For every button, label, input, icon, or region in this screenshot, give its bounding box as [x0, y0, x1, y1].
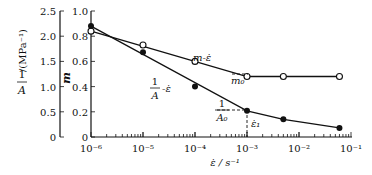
axis-ticks [60, 11, 351, 137]
m-series-markers [88, 28, 342, 79]
y-right-tick-label: 1.0 [72, 6, 88, 17]
x-tick-label: 10⁻⁵ [132, 143, 154, 154]
y-left-tick-label: 0.5 [40, 107, 56, 118]
a-curve-tail: -ε̇ [162, 83, 171, 94]
y-right-tick-label: 0 [82, 132, 88, 143]
m0-label: m₀ [231, 75, 245, 86]
eps1-label: ε̇₁ [251, 118, 260, 129]
y-left-tick-label: 1.5 [40, 56, 56, 67]
a-curve-num: 1 [152, 76, 158, 87]
y-left-tick-label: 2.0 [40, 31, 56, 42]
y-right-tick-label: 0.8 [72, 31, 88, 42]
y-right-tick-label: 0.4 [72, 82, 88, 93]
y-left-unit: /(MPa⁻¹) [17, 29, 28, 72]
y-left-tick-label: 1.0 [40, 82, 56, 93]
y-right-label: m [60, 72, 73, 84]
x-axis-label: ε̇ / s⁻¹ [210, 157, 240, 168]
x-tick-label: 10⁻² [288, 143, 310, 154]
y-right-tick-label: 0.6 [72, 56, 88, 67]
y-left-tick-label: 0 [50, 132, 56, 143]
x-tick-label: 10⁻⁶ [80, 143, 102, 154]
y-left-den: A [17, 84, 26, 97]
x-tick-label: 10⁻³ [236, 143, 258, 154]
x-tick-label: 10⁻¹ [340, 143, 362, 154]
a-curve-den: A [150, 90, 158, 101]
a0-den: A₀ [215, 112, 227, 123]
m-curve-label: m-ε̇ [193, 52, 211, 63]
tick-labels: 10⁻⁶10⁻⁵10⁻⁴10⁻³10⁻²10⁻¹00.51.01.52.02.5… [40, 6, 362, 154]
a0-num: 1 [219, 98, 225, 109]
m-series-line [91, 31, 339, 76]
chart: 10⁻⁶10⁻⁵10⁻⁴10⁻³10⁻²10⁻¹00.51.01.52.02.5… [0, 0, 372, 175]
y-right-tick-label: 0.2 [72, 107, 88, 118]
x-tick-label: 10⁻⁴ [184, 143, 206, 154]
y-left-tick-label: 2.5 [40, 6, 56, 17]
